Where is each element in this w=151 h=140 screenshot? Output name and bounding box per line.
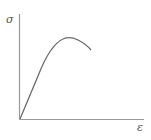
x-axis-label: ε	[137, 121, 143, 134]
stress-strain-diagram: σ ε	[0, 0, 151, 140]
y-axis-label: σ	[6, 13, 14, 26]
stress-strain-curve	[20, 38, 91, 119]
